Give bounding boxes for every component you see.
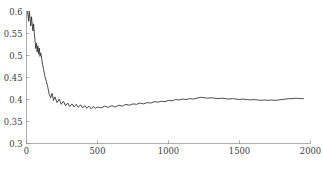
y-tick-label: 0.55	[4, 29, 23, 39]
x-axis-tick-labels: 0500100015002000	[24, 146, 321, 156]
y-tick-label: 0.5	[9, 51, 22, 61]
x-tick-label: 0	[24, 146, 29, 156]
axis-lines	[27, 12, 311, 144]
y-tick-label: 0.45	[4, 73, 23, 83]
chart-page: 0.30.350.40.450.50.550.6 050010001500200…	[0, 0, 323, 169]
x-tick-label: 2000	[300, 146, 321, 156]
y-tick-label: 0.3	[9, 139, 22, 149]
line-chart: 0.30.350.40.450.50.550.6 050010001500200…	[0, 0, 323, 169]
x-tick-label: 500	[90, 146, 106, 156]
y-tick-label: 0.35	[4, 117, 23, 127]
plot-area	[27, 3, 304, 109]
y-tick-label: 0.4	[9, 95, 22, 105]
x-tick-label: 1500	[229, 146, 250, 156]
data-series-line	[27, 3, 304, 109]
x-tick-label: 1000	[158, 146, 179, 156]
x-tick-marks	[27, 140, 311, 143]
y-tick-marks	[27, 12, 30, 144]
y-tick-label: 0.6	[9, 7, 22, 17]
axis-group	[27, 12, 311, 144]
y-axis-tick-labels: 0.30.350.40.450.50.550.6	[4, 7, 23, 149]
